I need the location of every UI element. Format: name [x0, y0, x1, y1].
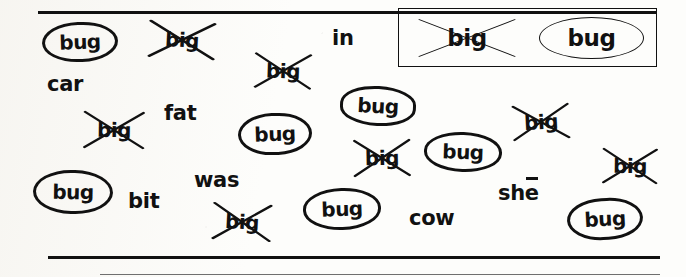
- crossed-big-4[interactable]: big: [353, 137, 412, 178]
- cross-out-icon: [253, 51, 312, 91]
- circled-bug-4[interactable]: bug: [423, 131, 502, 174]
- crossed-big-2[interactable]: big: [253, 51, 312, 91]
- circled-bug-5-label: bug: [52, 182, 94, 203]
- cross-out-icon: [211, 200, 273, 243]
- key-box: big bug: [398, 8, 657, 67]
- circled-bug-6[interactable]: bug: [302, 187, 381, 232]
- crossed-big-1[interactable]: big: [147, 18, 217, 62]
- circled-bug-3[interactable]: bug: [339, 84, 417, 128]
- word-in[interactable]: in: [332, 28, 354, 49]
- word-bit[interactable]: bit: [128, 191, 159, 212]
- crossed-big-7[interactable]: big: [602, 147, 659, 186]
- crossed-big-5[interactable]: big: [511, 102, 571, 143]
- cross-out-icon: [353, 137, 412, 178]
- crossed-big-6[interactable]: big: [211, 200, 273, 243]
- circled-bug-2-label: bug: [254, 123, 296, 144]
- legend-circled-bug: bug: [539, 17, 644, 59]
- she-prefix: sh: [498, 181, 525, 205]
- legend-crossed-big: big: [417, 18, 517, 58]
- circled-bug-7-label: bug: [584, 208, 626, 230]
- cross-out-icon: [511, 102, 571, 143]
- bottom-rule: [48, 256, 660, 259]
- word-was[interactable]: was: [194, 170, 239, 191]
- cross-out-icon: [147, 18, 217, 62]
- circled-bug-1[interactable]: bug: [41, 21, 118, 64]
- word-she[interactable]: she: [498, 183, 539, 204]
- cross-out-icon: [83, 109, 146, 150]
- circled-bug-7[interactable]: bug: [566, 196, 644, 242]
- circled-bug-5[interactable]: bug: [33, 169, 114, 214]
- word-car[interactable]: car: [47, 74, 83, 95]
- word-cow[interactable]: cow: [409, 208, 454, 229]
- worksheet-page: bugbigcarbiginbigfatbugbugbigbugbigbugwa…: [0, 0, 686, 277]
- cross-out-icon: [417, 18, 517, 58]
- circled-bug-2[interactable]: bug: [237, 112, 312, 157]
- circled-bug-4-label: bug: [442, 141, 484, 162]
- cross-out-icon: [602, 147, 659, 186]
- circled-bug-1-label: bug: [59, 31, 101, 52]
- circled-bug-3-label: bug: [357, 95, 399, 117]
- bottom-faint-rule: [100, 274, 660, 275]
- crossed-big-3[interactable]: big: [83, 109, 146, 150]
- she-macron-letter: e: [525, 181, 539, 205]
- circled-bug-6-label: bug: [321, 198, 363, 219]
- legend-circled-label: bug: [568, 27, 616, 50]
- word-fat[interactable]: fat: [164, 103, 196, 124]
